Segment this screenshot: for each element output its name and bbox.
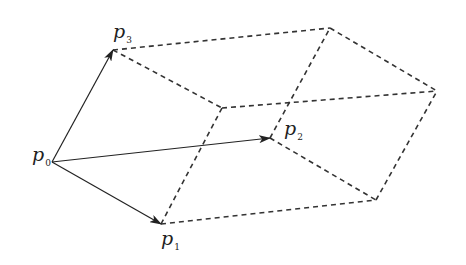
label-p2: p2 bbox=[284, 119, 303, 142]
dashed-edge-p1-p1p2 bbox=[161, 200, 376, 224]
dashed-edge-p2p3-p1p2p3 bbox=[330, 28, 437, 91]
dashed-edge-p1p2-p1p2p3 bbox=[376, 91, 437, 200]
dashed-edge-p2-p1p2 bbox=[270, 138, 376, 200]
dashed-edge-p3-p1p3 bbox=[113, 50, 222, 108]
label-p1: p1 bbox=[161, 229, 180, 252]
diagram-canvas bbox=[0, 0, 466, 265]
label-p0: p0 bbox=[32, 145, 51, 168]
vector-arrow-p0-p1 bbox=[52, 162, 161, 224]
vector-arrow-p0-p2 bbox=[52, 138, 270, 162]
parallelepiped-diagram: p0 p1 p2 p3 bbox=[0, 0, 466, 265]
dashed-edge-p1p3-p1p2p3 bbox=[222, 91, 437, 108]
dashed-edges bbox=[113, 28, 437, 224]
label-p3: p3 bbox=[113, 22, 132, 45]
dashed-edge-p1-p1p3 bbox=[161, 108, 222, 224]
dashed-edge-p3-p2p3 bbox=[113, 28, 330, 50]
vector-arrow-p0-p3 bbox=[52, 50, 113, 162]
